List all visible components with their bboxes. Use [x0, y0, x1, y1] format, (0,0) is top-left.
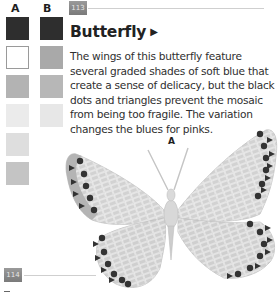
butterfly-illustration — [64, 128, 278, 294]
wing-dot — [77, 158, 83, 164]
wing-dot — [87, 195, 93, 201]
top-divider — [88, 8, 264, 9]
page-number-bottom: 114 — [4, 268, 22, 282]
color-swatch — [6, 104, 29, 127]
wing-dot — [125, 281, 131, 287]
wing-dot — [257, 131, 263, 137]
wing-dot — [247, 265, 253, 271]
page-number-top: 113 — [69, 1, 87, 15]
wing-dot — [99, 235, 105, 241]
entry-description: The wings of this butterfly feature seve… — [70, 49, 278, 137]
title-arrow-icon: ▶ — [150, 26, 158, 37]
color-swatch — [6, 75, 29, 98]
wing-dot — [247, 221, 253, 227]
wing-dot — [259, 181, 265, 187]
butterfly-body — [164, 200, 178, 228]
wing-dot — [111, 271, 117, 277]
wing-dot — [261, 143, 267, 149]
wing-dot — [257, 229, 263, 235]
swatch-column-a-label: A — [11, 2, 20, 15]
color-swatch — [6, 17, 29, 40]
wing-dot — [235, 271, 241, 277]
wing-dot — [263, 155, 269, 161]
color-swatch — [40, 17, 63, 40]
wing-dot — [261, 241, 267, 247]
entry-title: Butterfly▶ — [70, 23, 158, 41]
wing-dot — [119, 277, 125, 283]
color-swatch — [6, 162, 29, 185]
bottom-divider — [24, 275, 96, 276]
color-swatch — [40, 46, 63, 69]
swatch-column-b-label: B — [43, 2, 51, 15]
wing-dot — [255, 193, 261, 199]
wing-dot — [257, 253, 263, 259]
color-swatch — [6, 46, 29, 69]
wing-dot — [83, 183, 89, 189]
right-antenna — [174, 148, 188, 190]
color-swatch — [6, 133, 29, 156]
color-swatch — [40, 104, 63, 127]
wing-dot — [105, 261, 111, 267]
entry-title-text: Butterfly — [70, 23, 146, 41]
color-swatch — [40, 75, 63, 98]
wing-dot — [81, 171, 87, 177]
bottom-mark — [4, 291, 10, 292]
wing-dot — [101, 249, 107, 255]
wing-dot — [91, 207, 97, 213]
left-antenna — [148, 150, 168, 190]
